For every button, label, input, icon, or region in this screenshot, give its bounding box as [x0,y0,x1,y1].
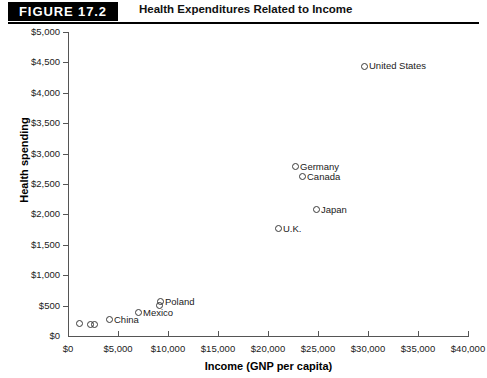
scatter-chart: $0$500$1,000$1,500$2,000$2,500$3,000$3,5… [0,26,487,378]
data-point-label: Poland [165,296,195,307]
x-axis-tick [468,331,469,336]
data-point [275,225,282,232]
y-axis-tick-label: $1,000 [2,269,60,280]
figure-header: FIGURE 17.2 Health Expenditures Related … [0,0,487,26]
data-point [292,163,299,170]
y-axis-tick [63,184,68,185]
data-point [91,321,98,328]
data-point [76,320,83,327]
data-point-label: China [114,314,139,325]
y-axis-tick-label: $2,500 [2,178,60,189]
y-axis-tick [63,32,68,33]
x-axis-tick [418,331,419,336]
data-point-label: United States [369,60,426,71]
y-axis-tick [63,123,68,124]
data-point [299,173,306,180]
data-point-label: Japan [321,204,347,215]
header-divider [8,22,479,24]
y-axis-tick-label: $3,500 [2,117,60,128]
x-axis-tick [318,331,319,336]
y-axis-tick [63,93,68,94]
figure-number-badge: FIGURE 17.2 [8,2,118,21]
y-axis-tick-label: $4,500 [2,56,60,67]
x-axis-line [68,336,469,337]
data-point-label: Canada [307,171,340,182]
y-axis-tick-label: $3,000 [2,148,60,159]
y-axis-tick [63,275,68,276]
y-axis-tick [63,306,68,307]
data-point [361,63,368,70]
y-axis-tick [63,154,68,155]
x-axis-tick [168,331,169,336]
x-axis-label: Income (GNP per capita) [68,360,469,372]
x-axis-tick [268,331,269,336]
x-axis-tick [218,331,219,336]
y-axis-tick-label: $2,000 [2,208,60,219]
y-axis-tick-label: $0 [2,330,60,341]
y-axis-tick [63,62,68,63]
y-axis-label: Health spending [18,100,30,220]
y-axis-tick-label: $5,000 [2,26,60,37]
x-axis-tick [118,331,119,336]
data-point [106,316,113,323]
y-axis-tick [63,245,68,246]
y-axis-tick [63,214,68,215]
y-axis-tick-label: $1,500 [2,239,60,250]
y-axis-tick-label: $4,000 [2,87,60,98]
figure-title: Health Expenditures Related to Income [139,3,352,15]
data-point-label: Mexico [143,307,173,318]
x-axis-tick [368,331,369,336]
data-point [313,206,320,213]
x-axis-tick-label: $40,000 [438,343,487,354]
y-axis-tick-label: $500 [2,300,60,311]
data-point-label: U.K. [283,223,301,234]
y-axis-line [68,32,69,337]
